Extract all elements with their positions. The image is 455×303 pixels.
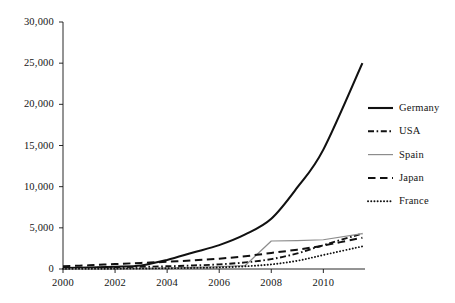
y-axis-tick-label: 15,000 [0,141,54,152]
legend-item-spain: Spain [399,150,424,161]
y-axis-tick-label: 5,000 [0,223,54,234]
x-axis-tick-label: 2010 [293,278,353,289]
legend-item-germany: Germany [399,103,439,114]
legend-item-japan: Japan [399,173,424,184]
line-chart: 05,00010,00015,00020,00025,00030,000 200… [0,0,455,303]
series-lines [63,63,362,269]
y-axis-ticks [59,22,63,269]
x-axis-tick-label: 2000 [33,278,93,289]
x-axis-ticks [63,269,323,273]
y-axis-tick-label: 25,000 [0,58,54,69]
y-axis-tick-label: 20,000 [0,99,54,110]
x-axis-tick-label: 2006 [189,278,249,289]
series-line-germany [63,63,362,268]
series-line-japan [63,238,362,267]
legend-swatches [368,108,393,201]
x-axis-tick-label: 2008 [241,278,301,289]
y-axis-tick-label: 30,000 [0,17,54,28]
x-axis-tick-label: 2002 [85,278,145,289]
legend-item-usa: USA [399,126,421,137]
x-axis-tick-label: 2004 [137,278,197,289]
legend-item-france: France [399,196,429,207]
chart-plot-area [0,0,455,303]
y-axis-tick-label: 0 [0,264,54,275]
y-axis-tick-label: 10,000 [0,182,54,193]
series-line-spain [63,234,362,269]
series-line-usa [63,234,362,269]
